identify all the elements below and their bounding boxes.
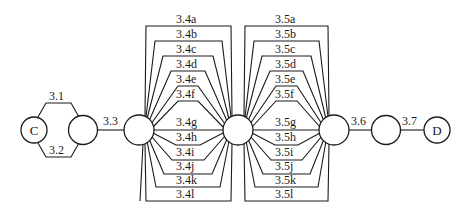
edge-label-3-7: 3.7 [402,114,417,128]
node-4 [223,115,253,145]
svg-text:3.5j: 3.5j [275,159,293,173]
svg-text:3.5i: 3.5i [275,145,294,159]
svg-text:3.4l: 3.4l [176,187,195,201]
svg-text:3.5h: 3.5h [275,130,296,144]
node-3 [124,115,154,145]
edge-labels-3-4: 3.4a 3.4b 3.4c 3.4d 3.4e 3.4f 3.4g 3.4h … [176,12,197,201]
svg-text:3.4d: 3.4d [176,57,197,71]
edge-labels-3-5: 3.5a 3.5b 3.5c 3.5d 3.5e 3.5f 3.5g 3.5h … [275,12,296,201]
svg-text:3.5a: 3.5a [275,12,296,26]
svg-text:3.5c: 3.5c [275,42,295,56]
svg-text:3.4b: 3.4b [176,27,197,41]
svg-text:3.4k: 3.4k [176,173,197,187]
node-5 [319,115,349,145]
edge-label-3-6: 3.6 [351,114,366,128]
svg-text:3.5b: 3.5b [275,27,296,41]
svg-text:3.5k: 3.5k [275,173,296,187]
svg-text:3.4f: 3.4f [176,87,195,101]
node-label-c: C [30,123,39,138]
svg-text:3.5e: 3.5e [275,72,295,86]
edge-label-3-3: 3.3 [103,114,118,128]
svg-text:3.4e: 3.4e [176,72,196,86]
svg-text:3.4c: 3.4c [176,42,196,56]
svg-text:3.4g: 3.4g [176,115,197,129]
node-6 [372,116,401,145]
svg-text:3.5g: 3.5g [275,115,296,129]
svg-text:3.4i: 3.4i [176,145,195,159]
svg-text:3.4h: 3.4h [176,130,197,144]
network-diagram: 3.1 3.2 3.3 3.4a 3.4b 3.4c 3.4d 3.4e 3.4… [0,0,470,210]
svg-text:3.5d: 3.5d [275,57,296,71]
edge-label-3-2: 3.2 [49,143,64,157]
svg-text:3.4j: 3.4j [176,159,194,173]
svg-text:3.5f: 3.5f [275,87,294,101]
edge-label-3-1: 3.1 [49,89,64,103]
edge-3-1 [38,103,79,117]
svg-text:3.5l: 3.5l [275,187,294,201]
svg-text:3.4a: 3.4a [176,12,197,26]
node-label-d: D [432,123,441,138]
node-2 [69,116,98,145]
